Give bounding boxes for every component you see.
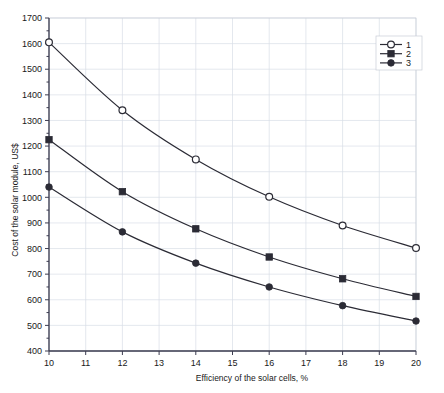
data-point-filled-circle xyxy=(339,302,346,309)
y-tick-label: 1500 xyxy=(22,64,42,74)
data-point-open-circle xyxy=(388,41,395,48)
x-axis-title: Efficiency of the solar cells, % xyxy=(196,373,309,383)
x-tick-label: 17 xyxy=(301,358,311,368)
x-tick-label: 18 xyxy=(338,358,348,368)
data-point-filled-circle xyxy=(119,229,126,236)
y-tick-label: 1100 xyxy=(23,167,42,177)
data-point-filled-circle xyxy=(388,60,395,67)
y-tick-label: 900 xyxy=(27,218,42,228)
x-tick-label: 20 xyxy=(411,358,421,368)
data-point-filled-circle xyxy=(193,260,200,267)
y-tick-label: 800 xyxy=(27,244,42,254)
data-point-filled-square xyxy=(413,293,419,299)
data-point-open-circle xyxy=(339,222,346,229)
data-point-filled-circle xyxy=(46,184,53,191)
y-tick-label: 700 xyxy=(27,269,42,279)
y-tick-label: 1400 xyxy=(22,90,42,100)
data-point-open-circle xyxy=(46,39,53,46)
data-point-open-circle xyxy=(192,156,199,163)
data-point-filled-circle xyxy=(413,318,420,325)
x-tick-label: 19 xyxy=(374,358,384,368)
x-tick-label: 15 xyxy=(227,358,237,368)
legend-label-3: 3 xyxy=(406,58,411,68)
data-point-filled-square xyxy=(119,188,125,194)
data-point-open-circle xyxy=(119,107,126,114)
data-point-filled-square xyxy=(339,276,345,282)
data-point-filled-square xyxy=(266,254,272,260)
x-tick-label: 13 xyxy=(154,358,164,368)
chart-container: 4005006007008009001000110012001300140015… xyxy=(0,0,444,393)
y-tick-label: 1300 xyxy=(22,116,42,126)
y-tick-label: 500 xyxy=(27,321,42,331)
data-point-open-circle xyxy=(413,245,420,252)
data-point-filled-square xyxy=(46,136,52,142)
y-tick-label: 1200 xyxy=(22,141,42,151)
y-tick-label: 600 xyxy=(27,295,42,305)
data-point-filled-circle xyxy=(266,284,273,291)
y-tick-label: 1700 xyxy=(22,13,42,23)
data-point-open-circle xyxy=(266,193,273,200)
line-chart: 4005006007008009001000110012001300140015… xyxy=(0,0,444,393)
x-tick-label: 14 xyxy=(191,358,201,368)
y-tick-label: 1600 xyxy=(22,39,42,49)
data-point-filled-square xyxy=(193,226,199,232)
x-tick-label: 10 xyxy=(44,358,54,368)
chart-legend: 123 xyxy=(376,36,422,70)
y-tick-label: 1000 xyxy=(22,193,42,203)
x-tick-label: 12 xyxy=(117,358,127,368)
y-tick-label: 400 xyxy=(27,346,42,356)
y-axis-title: Cost of the solar module, US$ xyxy=(10,143,20,257)
legend-box xyxy=(376,36,422,70)
data-point-filled-square xyxy=(388,51,394,57)
x-tick-label: 16 xyxy=(264,358,274,368)
x-tick-label: 11 xyxy=(81,358,90,368)
